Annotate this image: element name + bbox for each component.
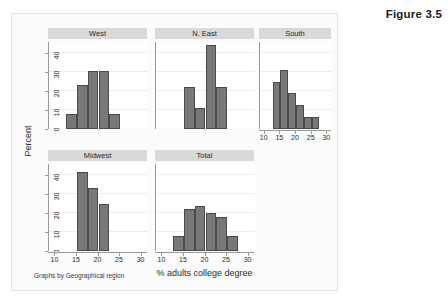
histogram-bar: [227, 236, 238, 251]
histogram-bar: [206, 45, 217, 129]
histogram-bar: [304, 117, 312, 129]
x-tick-label: 20: [291, 134, 299, 141]
y-tick: [45, 53, 48, 54]
x-axis-title: % adults college degree: [133, 268, 276, 278]
x-tick-label: 10: [51, 256, 59, 263]
panel-west: West010203040: [48, 28, 147, 147]
panel-title: West: [48, 28, 147, 39]
x-tick-label: 15: [275, 134, 283, 141]
y-tick: [45, 194, 48, 195]
gridline: [49, 52, 148, 53]
histogram-bar: [195, 206, 206, 251]
plot-area: [155, 42, 255, 129]
y-tick: [45, 213, 48, 214]
x-tick-label: 20: [201, 256, 209, 263]
histogram-bar: [88, 188, 99, 251]
gridline: [156, 193, 255, 194]
histogram-bar: [77, 172, 88, 251]
histogram-bar: [99, 71, 110, 129]
figure-footnote: Graphs by Geographical region: [34, 272, 124, 279]
panel-n-east: N. East: [155, 28, 254, 147]
histogram-bar: [88, 71, 99, 129]
x-tick-label: 25: [115, 256, 123, 263]
panel-title: Midwest: [48, 150, 147, 161]
y-tick: [45, 175, 48, 176]
y-tick: [45, 110, 48, 111]
histogram-bar: [109, 114, 120, 129]
y-tick-label: 20: [53, 90, 60, 104]
histogram-bar: [216, 87, 227, 129]
x-tick-label: 10: [260, 134, 268, 141]
x-tick-label: 30: [322, 134, 330, 141]
figure-root: Figure 3.5 West010203040N. EastSouth1015…: [0, 0, 448, 303]
gridline: [49, 174, 148, 175]
plot-area: [259, 42, 332, 129]
histogram-bar: [173, 236, 184, 251]
histogram-bar: [312, 117, 320, 129]
plot-card: West010203040N. EastSouth1015202530Midwe…: [11, 13, 338, 291]
panel-south: South1015202530: [259, 28, 331, 147]
y-tick-label: 10: [53, 109, 60, 123]
x-tick-label: 25: [222, 256, 230, 263]
histogram-bar: [273, 82, 281, 129]
y-tick-label: 30: [53, 71, 60, 85]
histogram-bar: [195, 108, 206, 129]
gridline: [260, 71, 332, 72]
histogram-bar: [206, 213, 217, 251]
y-tick: [45, 232, 48, 233]
x-tick-label: 15: [72, 256, 80, 263]
y-tick-label: 40: [53, 52, 60, 66]
y-tick-label: 0: [53, 128, 60, 142]
histogram-bar: [99, 204, 110, 251]
gridline: [156, 174, 255, 175]
y-tick: [45, 129, 48, 130]
x-tick-label: 10: [158, 256, 166, 263]
x-tick-label: 30: [137, 256, 145, 263]
histogram-bar: [280, 70, 288, 129]
panel-title: South: [259, 28, 331, 39]
histogram-bar: [184, 209, 195, 251]
panel-title: Total: [155, 150, 254, 161]
x-tick-label: 15: [179, 256, 187, 263]
histogram-bar: [66, 114, 77, 129]
y-tick-label: 20: [53, 212, 60, 226]
histogram-bar: [77, 85, 88, 129]
gridline: [260, 52, 332, 53]
x-tick-label: 30: [244, 256, 252, 263]
plot-area: [48, 164, 148, 251]
histogram-bar: [184, 87, 195, 129]
figure-number-label: Figure 3.5: [386, 8, 442, 20]
panel-title: N. East: [155, 28, 254, 39]
gridline: [49, 193, 148, 194]
y-tick: [45, 72, 48, 73]
y-tick: [45, 91, 48, 92]
histogram-bar: [296, 105, 304, 129]
gridline: [260, 90, 332, 91]
y-axis-title: Percent: [23, 111, 33, 171]
histogram-bar: [288, 93, 296, 129]
x-tick-label: 25: [307, 134, 315, 141]
histogram-bar: [216, 217, 227, 251]
y-tick-label: 40: [53, 174, 60, 188]
panel-total: Total1015202530: [155, 150, 254, 269]
plot-area: [48, 42, 148, 129]
y-tick-label: 30: [53, 193, 60, 207]
x-tick-label: 20: [94, 256, 102, 263]
y-tick-label: 10: [53, 231, 60, 245]
plot-area: [155, 164, 255, 251]
panel-midwest: Midwest0102030401015202530: [48, 150, 147, 269]
